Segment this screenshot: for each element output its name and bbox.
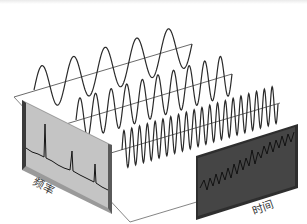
fourier-diagram: 频率 时间 [0,0,307,224]
time-panel [196,124,298,220]
frequency-panel [22,100,112,214]
baseline-low [14,44,192,97]
